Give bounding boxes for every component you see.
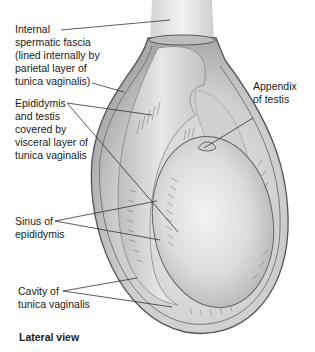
- label-line: (lined internally by: [15, 49, 100, 61]
- label-internal-spermatic-fascia: Internal spermatic fascia (lined interna…: [15, 23, 100, 88]
- label-line: of testis: [253, 93, 289, 105]
- label-line: Internal: [15, 23, 50, 35]
- anatomy-figure: Internal spermatic fascia (lined interna…: [0, 0, 315, 352]
- label-line: Cavity of: [18, 285, 59, 297]
- label-line: tunica vaginalis: [18, 298, 90, 310]
- label-line: and testis: [15, 110, 60, 122]
- label-cavity-of-tunica-vaginalis: Cavity of tunica vaginalis: [18, 285, 90, 311]
- label-appendix-of-testis: Appendix of testis: [253, 80, 297, 106]
- label-line: spermatic fascia: [15, 36, 91, 48]
- label-line: tunica vaginalis: [15, 149, 87, 161]
- label-line: tunica vaginalis): [15, 75, 90, 87]
- label-line: covered by: [15, 123, 66, 135]
- label-line: Sinus of: [15, 215, 53, 227]
- figure-caption: Lateral view: [19, 331, 79, 343]
- label-line: parietal layer of: [15, 62, 87, 74]
- label-line: Appendix: [253, 80, 297, 92]
- label-epididymis-and-testis: Epididymis and testis covered by viscera…: [15, 97, 88, 162]
- label-line: visceral layer of: [15, 136, 88, 148]
- label-sinus-of-epididymis: Sinus of epididymis: [15, 215, 65, 241]
- label-line: epididymis: [15, 228, 65, 240]
- label-line: Epididymis: [15, 97, 66, 109]
